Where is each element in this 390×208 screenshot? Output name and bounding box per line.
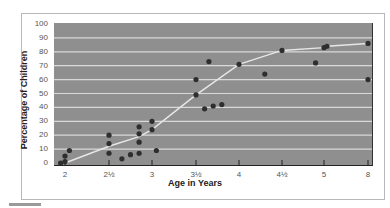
- data-point: [137, 140, 142, 145]
- data-point: [137, 131, 142, 136]
- data-point: [62, 153, 67, 158]
- data-point: [365, 41, 370, 46]
- data-point: [193, 92, 198, 97]
- data-point: [279, 48, 284, 53]
- data-point: [206, 59, 211, 64]
- data-point: [313, 60, 318, 65]
- data-point: [193, 77, 198, 82]
- data-point: [202, 106, 207, 111]
- data-point: [365, 77, 370, 82]
- data-point: [154, 148, 159, 153]
- data-point: [106, 133, 111, 138]
- data-point: [149, 119, 154, 124]
- data-point: [106, 151, 111, 156]
- chart-canvas: [0, 0, 390, 208]
- data-point: [262, 71, 267, 76]
- data-point: [137, 151, 142, 156]
- data-point: [324, 44, 329, 49]
- data-point: [67, 148, 72, 153]
- data-point: [137, 124, 142, 129]
- data-point: [128, 152, 133, 157]
- data-point: [236, 62, 241, 67]
- data-point: [106, 141, 111, 146]
- data-point: [58, 160, 63, 165]
- decorative-bar: [9, 203, 41, 206]
- data-point: [62, 159, 67, 164]
- data-point: [149, 127, 154, 132]
- data-point: [219, 102, 224, 107]
- data-point: [211, 103, 216, 108]
- data-point: [119, 156, 124, 161]
